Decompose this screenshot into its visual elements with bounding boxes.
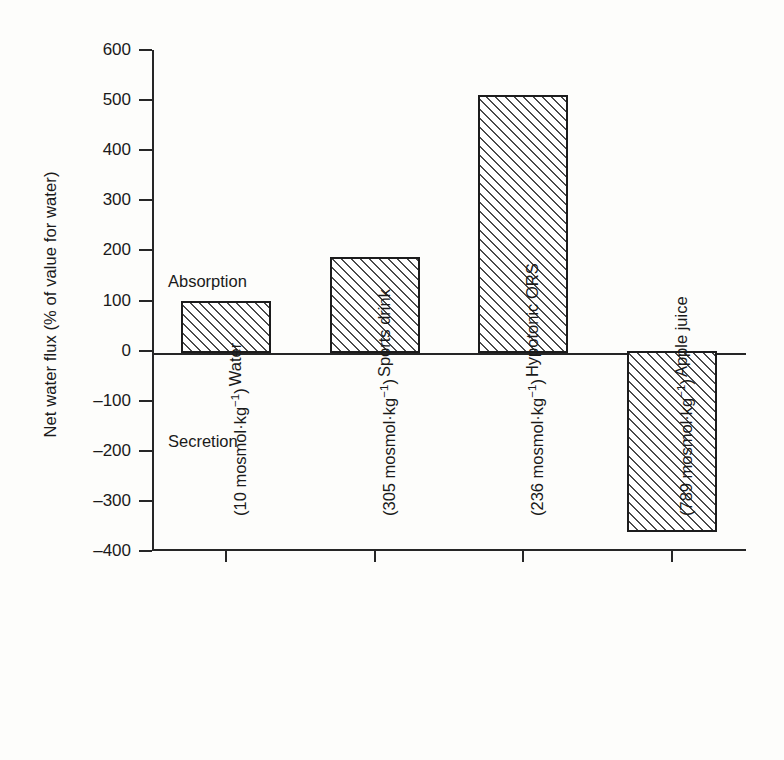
y-axis-spine [152, 50, 154, 551]
y-tick-label: 200 [103, 240, 131, 260]
osmolality-exponent: −1 [675, 385, 687, 398]
osmolality-close-paren: ) [231, 388, 249, 394]
y-tick-400: 400 [139, 149, 152, 151]
x-category-line1: Apple juice [672, 296, 691, 377]
x-category-lines: Hypotonic ORS(236 mosmol·kg−1) [523, 263, 547, 516]
osmolality-close-paren: ) [379, 379, 397, 385]
y-tick-label: –400 [93, 541, 131, 561]
osmolality-close-paren: ) [676, 379, 694, 385]
osmolality-exponent: −1 [378, 385, 390, 398]
y-tick-label: 100 [103, 291, 131, 311]
y-tick-label: 400 [103, 140, 131, 160]
x-category-line2: (789 mosmol·kg−1) [672, 379, 696, 516]
x-category-lines: Apple juice(789 mosmol·kg−1) [672, 296, 696, 516]
y-tick-label: –200 [93, 441, 131, 461]
x-category-line2: (236 mosmol·kg−1) [523, 379, 547, 516]
y-tick-label: 300 [103, 190, 131, 210]
x-tick-sports-drink [374, 551, 376, 562]
osmolality-text: (305 mosmol·kg [379, 398, 397, 516]
x-category-lines: Water(10 mosmol·kg−1) [226, 343, 250, 516]
y-tick-label: 500 [103, 90, 131, 110]
y-tick-label: –100 [93, 391, 131, 411]
x-category-line1: Hypotonic ORS [523, 263, 542, 377]
osmolality-exponent: −1 [526, 385, 538, 398]
y-tick-600: 600 [139, 49, 152, 51]
y-axis-title: Net water flux (% of value for water) [41, 85, 60, 525]
y-tick--100: –100 [139, 400, 152, 402]
x-category-line1: Water [226, 343, 245, 386]
x-axis-spine [152, 549, 746, 551]
y-tick-200: 200 [139, 249, 152, 251]
y-tick-500: 500 [139, 99, 152, 101]
x-tick-hypotonic-ors [522, 551, 524, 562]
y-tick-0: 0 [139, 350, 152, 352]
y-tick--400: –400 [139, 550, 152, 552]
y-tick-300: 300 [139, 199, 152, 201]
x-tick-apple-juice [671, 551, 673, 562]
osmolality-text: (789 mosmol·kg [676, 398, 694, 516]
osmolality-exponent: −1 [229, 394, 241, 407]
x-category-line1: Sports drink [375, 289, 394, 377]
y-tick--300: –300 [139, 500, 152, 502]
y-tick--200: –200 [139, 450, 152, 452]
osmolality-text: (10 mosmol·kg [231, 407, 249, 516]
y-tick-label: 0 [122, 341, 131, 361]
x-category-lines: Sports drink(305 mosmol·kg−1) [375, 289, 399, 516]
x-category-line2: (10 mosmol·kg−1) [226, 388, 250, 516]
bar-chart-figure: Net water flux (% of value for water) 60… [0, 0, 784, 760]
osmolality-text: (236 mosmol·kg [528, 398, 546, 516]
y-tick-label: 600 [103, 40, 131, 60]
x-category-line2: (305 mosmol·kg−1) [375, 379, 399, 516]
x-tick-water [225, 551, 227, 562]
osmolality-close-paren: ) [528, 379, 546, 385]
annotation-absorption: Absorption [168, 272, 247, 291]
y-tick-100: 100 [139, 300, 152, 302]
y-tick-label: –300 [93, 491, 131, 511]
